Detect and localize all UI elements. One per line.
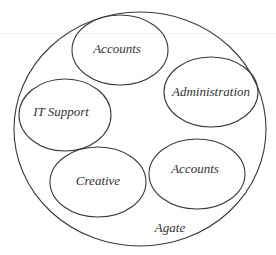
group-accounts-bottom: Accounts	[149, 139, 245, 209]
group-it-support: IT Support	[19, 79, 111, 151]
group-creative: Creative	[50, 147, 146, 217]
group-administration: Administration	[164, 57, 258, 127]
group-label: Administration	[171, 84, 250, 99]
group-label: Creative	[76, 173, 121, 188]
group-label: Accounts	[92, 41, 141, 56]
containment-diagram: Agate Accounts Administration IT Support…	[0, 0, 276, 255]
group-accounts-top: Accounts	[72, 15, 168, 85]
group-label: Accounts	[170, 161, 219, 176]
group-label: IT Support	[32, 104, 89, 119]
container-label: Agate	[154, 220, 186, 235]
